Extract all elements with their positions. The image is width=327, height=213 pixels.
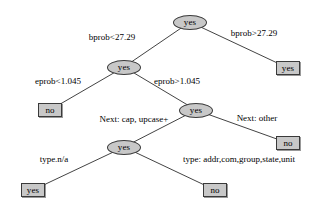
node-label: yes	[118, 63, 130, 72]
decision-node-n3: yes	[179, 103, 213, 118]
node-label: yes	[190, 106, 202, 115]
node-label: yes	[282, 64, 294, 73]
leaf-node-leaf_r3: no	[203, 183, 227, 197]
tree-edge-label: bprob>27.29	[231, 29, 277, 38]
leaf-node-leaf_r2: no	[276, 136, 300, 150]
node-label: yes	[118, 143, 130, 152]
tree-edge-label: eprob<1.045	[35, 77, 81, 86]
node-label: no	[210, 186, 219, 195]
decision-node-n4: yes	[107, 140, 141, 155]
decision-node-n2: yes	[107, 60, 141, 75]
tree-edge-label: type.n/a	[40, 155, 69, 164]
node-label: no	[283, 139, 292, 148]
leaf-node-leaf_l1: no	[38, 103, 62, 117]
decision-node-root: yes	[173, 15, 207, 30]
decision-tree-diagram: yesyesyesnoyesnoyesyesno bprob<27.29bpro…	[0, 0, 327, 213]
leaf-node-leaf_l3: yes	[21, 183, 45, 197]
node-label: yes	[27, 186, 39, 195]
node-label: no	[45, 106, 54, 115]
tree-edge-label: Next: cap, upcase+	[100, 115, 169, 124]
tree-edge-label: bprob<27.29	[89, 33, 135, 42]
tree-edge	[131, 27, 183, 62]
leaf-node-leaf_r1: yes	[276, 61, 300, 75]
tree-edge-label: eprob>1.045	[154, 77, 200, 86]
node-label: yes	[184, 18, 196, 27]
tree-edge-label: Next: other	[237, 114, 278, 123]
tree-edge-label: type: addr,com,group,state,unit	[183, 155, 295, 164]
